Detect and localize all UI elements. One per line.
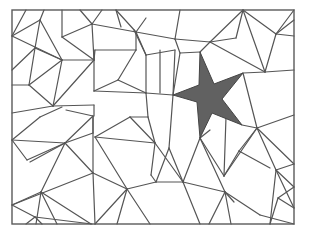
mesh-edge (53, 105, 94, 106)
mesh-edge (35, 20, 40, 48)
mesh-edge (183, 138, 200, 182)
mesh-edge (65, 133, 93, 143)
mesh-edge (151, 175, 156, 182)
mesh-edge (12, 205, 35, 217)
mesh-edge (200, 42, 210, 52)
mesh-edge (210, 42, 265, 72)
mesh-edge (243, 72, 265, 73)
mesh-edge (243, 73, 257, 128)
mesh-edge (65, 143, 93, 173)
mesh-edge (12, 140, 27, 160)
mesh-edge (53, 60, 62, 106)
mesh-edge (93, 173, 95, 224)
mesh-edge (276, 34, 294, 36)
mesh-edge (80, 10, 92, 24)
mesh-edge (224, 151, 239, 176)
shaded-star (173, 52, 243, 138)
mesh-edge (41, 143, 65, 192)
mesh-edge (29, 85, 53, 106)
mesh-edge (65, 116, 93, 143)
mesh-edge (136, 32, 175, 39)
outer-frame (12, 10, 294, 224)
mesh-edge (276, 164, 294, 170)
mesh-edge (12, 140, 65, 143)
mesh-edge (257, 128, 276, 170)
mesh-edge (40, 20, 62, 60)
mesh-edge (95, 117, 130, 137)
mesh-edge (239, 128, 257, 151)
mesh-edge (62, 37, 94, 60)
mesh-edge (66, 110, 93, 116)
mesh-edge (40, 10, 44, 20)
mesh-edge (180, 52, 200, 53)
mesh-edge (210, 10, 243, 42)
mesh-edge (146, 93, 148, 117)
mesh-edge (92, 10, 102, 24)
mesh-edge (175, 10, 180, 39)
mesh-edge (242, 125, 257, 128)
mesh-edge (94, 91, 146, 93)
mesh-edge (224, 117, 226, 176)
mesh-edge (94, 80, 118, 91)
mesh-edge (127, 189, 150, 224)
mesh-edge (95, 137, 155, 143)
mesh-edge (260, 215, 294, 224)
mesh-edge (276, 170, 294, 187)
mesh-edges (12, 10, 294, 224)
mesh-edge (29, 60, 62, 85)
mesh-edge (243, 10, 265, 72)
mesh-edge (239, 151, 270, 168)
mesh-edge (200, 138, 224, 176)
mesh-edge (26, 217, 35, 224)
mesh-edge (175, 39, 210, 42)
mesh-edge (209, 192, 225, 224)
mesh-edge (35, 48, 62, 60)
mesh-edge (265, 34, 276, 72)
mesh-edge (53, 60, 94, 106)
mesh-edge (40, 107, 62, 117)
mesh-diagram (0, 0, 309, 237)
mesh-edge (243, 10, 276, 34)
mesh-edge (12, 106, 53, 113)
mesh-edge (118, 80, 146, 93)
mesh-edge (12, 192, 41, 205)
mesh-edge (136, 18, 146, 32)
mesh-edge (257, 115, 294, 128)
mesh-edge (265, 70, 294, 72)
mesh-edge (200, 138, 225, 192)
mesh-edge (62, 24, 92, 37)
mesh-edge (257, 128, 294, 164)
mesh-edge (12, 117, 40, 140)
mesh-edge (169, 95, 173, 148)
mesh-edge (225, 192, 260, 215)
mesh-edge (151, 143, 155, 175)
mesh-edge (127, 182, 156, 189)
mesh-edge (183, 182, 200, 224)
mesh-edge (35, 217, 92, 224)
mesh-edge (278, 187, 294, 198)
mesh-edge (175, 39, 180, 53)
mesh-edge (118, 50, 136, 80)
mesh-edge (183, 182, 225, 192)
